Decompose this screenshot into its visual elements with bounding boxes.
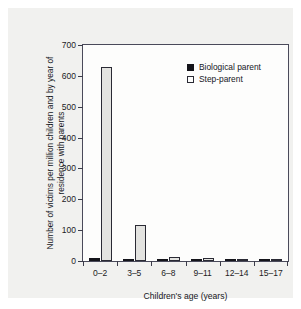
y-axis-tick-label: 300 — [62, 164, 76, 173]
x-axis-tick-mark — [186, 261, 187, 266]
x-axis-tick-mark — [254, 261, 255, 266]
x-axis-title: Children's age (years) — [82, 291, 289, 301]
figure-canvas: Number of victims per million children a… — [0, 0, 301, 309]
bar-step-parent-15-17 — [271, 259, 282, 261]
bar-step-parent-3-5 — [135, 225, 146, 261]
bar-step-parent-6-8 — [169, 257, 180, 261]
legend-label-step-parent: Step-parent — [199, 75, 243, 83]
legend-label-biological-parent: Biological parent — [199, 63, 261, 71]
legend-swatch-open-square-icon — [187, 76, 194, 83]
bar-biological-parent-3-5 — [123, 259, 134, 261]
bar-step-parent-12-14 — [237, 259, 248, 261]
y-axis-tick-mark — [78, 76, 83, 77]
legend-entry-step-parent: Step-parent — [187, 74, 261, 85]
y-axis-tick-label: 200 — [62, 195, 76, 204]
bar-step-parent-0-2 — [101, 67, 112, 261]
bar-biological-parent-9-11 — [191, 259, 202, 261]
y-axis-tick-label: 700 — [62, 41, 76, 50]
x-axis-tick-label: 15–17 — [259, 269, 283, 278]
y-axis-tick-mark — [78, 199, 83, 200]
legend-swatch-filled-square-icon — [187, 64, 194, 71]
legend-entry-biological-parent: Biological parent — [187, 62, 261, 73]
x-axis-tick-label: 0–2 — [93, 269, 107, 278]
bar-step-parent-9-11 — [203, 258, 214, 261]
legend: Biological parent Step-parent — [187, 62, 261, 86]
y-axis-tick-label: 400 — [62, 133, 76, 142]
x-axis-tick-mark — [151, 261, 152, 266]
bar-biological-parent-0-2 — [89, 258, 100, 261]
y-axis-tick-label: 600 — [62, 72, 76, 81]
x-axis-tick-mark — [220, 261, 221, 266]
y-axis-tick-mark — [78, 230, 83, 231]
bar-biological-parent-12-14 — [225, 259, 236, 261]
y-axis-tick-mark — [78, 45, 83, 46]
x-axis-tick-mark — [83, 261, 84, 266]
y-axis-tick-label: 100 — [62, 226, 76, 235]
y-axis-tick-mark — [78, 107, 83, 108]
plot-area: 01002003004005006007000–23–56–89–1112–14… — [82, 44, 289, 262]
x-axis-tick-mark — [287, 261, 288, 266]
x-axis-tick-label: 9–11 — [193, 269, 211, 278]
x-axis-tick-mark — [117, 261, 118, 266]
y-axis-tick-label: 500 — [62, 102, 76, 111]
bar-biological-parent-6-8 — [157, 259, 168, 261]
chart-panel: Number of victims per million children a… — [8, 8, 293, 298]
y-axis-tick-mark — [78, 138, 83, 139]
bar-biological-parent-15-17 — [259, 259, 270, 261]
x-axis-tick-label: 3–5 — [127, 269, 141, 278]
x-axis-tick-label: 6–8 — [161, 269, 175, 278]
y-axis-tick-label: 0 — [71, 257, 76, 266]
y-axis-tick-mark — [78, 168, 83, 169]
x-axis-tick-label: 12–14 — [225, 269, 249, 278]
